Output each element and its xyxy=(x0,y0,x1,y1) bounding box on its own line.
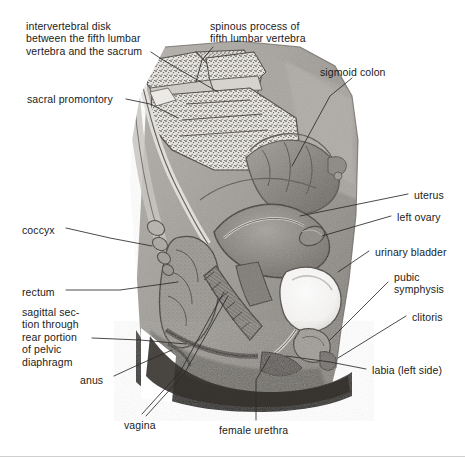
leader-lines xyxy=(0,0,465,457)
label-intervertebral-disk: intervertebral disk between the fifth lu… xyxy=(26,20,142,57)
label-labia: labia (left side) xyxy=(372,364,442,376)
leader-spinous-process xyxy=(196,47,213,82)
label-sacral-promontory: sacral promontory xyxy=(27,93,113,105)
leader-left-ovary xyxy=(322,216,391,236)
label-pubic-symphysis: pubic symphysis xyxy=(394,271,444,296)
leader-intervertebral-disk xyxy=(151,52,218,92)
leader-pelvic-diaphragm xyxy=(92,338,186,344)
label-rectum: rectum xyxy=(22,286,55,298)
leader-vagina xyxy=(142,292,224,414)
label-left-ovary: left ovary xyxy=(397,211,441,223)
label-female-urethra: female urethra xyxy=(219,424,288,436)
label-vagina: vagina xyxy=(124,419,156,431)
leader-uterus xyxy=(300,194,408,216)
anatomical-figure: intervertebral disk between the fifth lu… xyxy=(0,0,465,457)
leader-rectum xyxy=(66,282,178,290)
label-uterus: uterus xyxy=(414,189,444,201)
leader-female-urethra xyxy=(256,356,270,420)
leader-anus xyxy=(114,350,172,376)
leader-coccyx xyxy=(66,228,152,246)
label-clitoris: clitoris xyxy=(412,311,443,323)
leader-urinary-bladder xyxy=(338,251,369,272)
label-coccyx: coccyx xyxy=(22,224,55,236)
label-sigmoid-colon: sigmoid colon xyxy=(320,66,386,78)
label-pelvic-diaphragm: sagittal sec- tion through rear portion … xyxy=(22,306,79,368)
leader-sigmoid-colon xyxy=(292,78,352,166)
label-spinous-process: spinous process of fifth lumbar vertebra xyxy=(210,20,306,45)
leader-sacral-promontory xyxy=(126,99,178,118)
label-urinary-bladder: urinary bladder xyxy=(375,246,447,258)
label-anus: anus xyxy=(80,374,103,386)
leader-pubic-symphysis xyxy=(330,282,388,340)
leader-labia xyxy=(286,356,366,369)
